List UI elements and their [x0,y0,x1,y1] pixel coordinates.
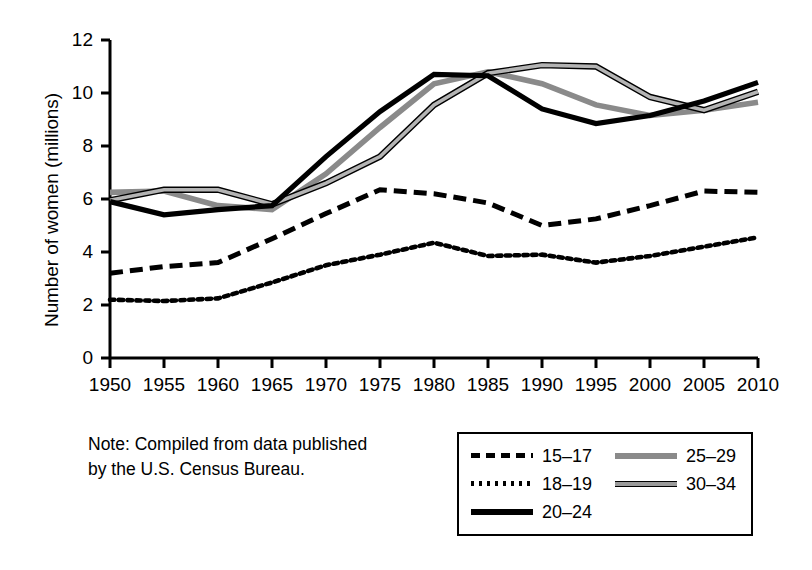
legend: 15–1718–1920–24 25–2930–34 [457,432,753,536]
x-axis-tick-label: 1995 [566,375,626,394]
y-axis-tick-label: 0 [53,348,93,367]
legend-line-sample [471,509,533,515]
legend-line-sample [615,481,677,487]
legend-swatch-dotted-icon [471,477,533,491]
x-axis-tick-label: 2000 [620,375,680,394]
x-axis-tick-label: 1970 [296,375,356,394]
x-axis-tick-label: 2010 [728,375,788,394]
y-axis-tick-label: 8 [53,136,93,155]
legend-swatch-gray-icon [615,449,677,463]
source-note-line-1: Note: Compiled from data published [88,432,438,457]
y-axis-tick-label: 4 [53,242,93,261]
y-axis-tick-label: 10 [53,83,93,102]
x-axis-tick-label: 1960 [188,375,248,394]
legend-item-18-19[interactable]: 18–19 [471,470,592,498]
legend-column-left: 15–1718–1920–24 [471,442,592,526]
y-axis-tick-label: 2 [53,295,93,314]
series-line-18-19 [110,237,758,301]
plot-area: 121086420 195019551960196519701975198019… [0,0,812,410]
x-axis-tick-label: 1980 [404,375,464,394]
legend-item-label: 18–19 [542,475,592,493]
legend-line-sample [615,453,677,459]
legend-line-sample [471,481,533,486]
plot-svg [0,0,812,410]
x-axis-tick-label: 1990 [512,375,572,394]
legend-swatch-solid-icon [471,505,533,519]
x-axis-tick-label: 2005 [674,375,734,394]
legend-item-25-29[interactable]: 25–29 [615,442,736,470]
legend-item-30-34[interactable]: 30–34 [615,470,736,498]
source-note: Note: Compiled from data published by th… [88,432,438,482]
x-axis-tick-label: 1950 [80,375,140,394]
legend-item-label: 30–34 [686,475,736,493]
x-axis-tick-label: 1975 [350,375,410,394]
legend-swatch-dashed-icon [471,449,533,463]
legend-line-sample [471,453,533,458]
data-series-group [110,65,758,301]
chart-figure: Number of women (millions) 121086420 195… [0,0,812,570]
x-axis-tick-label: 1955 [134,375,194,394]
legend-item-label: 20–24 [542,503,592,521]
legend-item-15-17[interactable]: 15–17 [471,442,592,470]
x-axis-tick-label: 1985 [458,375,518,394]
source-note-line-2: by the U.S. Census Bureau. [88,457,438,482]
y-axis-tick-label: 6 [53,189,93,208]
y-axis-tick-label: 12 [53,30,93,49]
x-axis-tick-label: 1965 [242,375,302,394]
legend-swatch-outlined-icon [615,477,677,491]
legend-column-right: 25–2930–34 [615,442,736,498]
legend-item-20-24[interactable]: 20–24 [471,498,592,526]
legend-item-label: 25–29 [686,447,736,465]
legend-item-label: 15–17 [542,447,592,465]
